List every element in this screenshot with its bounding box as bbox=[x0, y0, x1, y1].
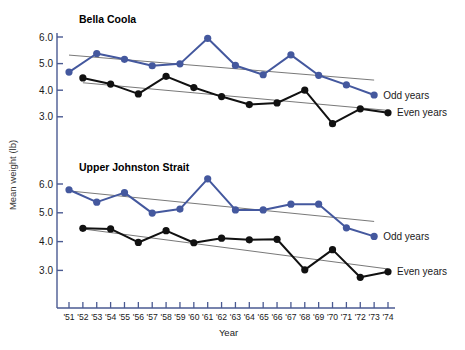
data-point bbox=[79, 74, 86, 81]
data-point bbox=[149, 62, 156, 69]
figure-root: Mean weight (lb)Bella Coola3.04.05.06.0O… bbox=[0, 0, 465, 350]
data-point bbox=[343, 81, 350, 88]
x-tick-label: '67 bbox=[285, 312, 296, 322]
series-line bbox=[69, 179, 374, 237]
data-point bbox=[329, 246, 336, 253]
data-point bbox=[93, 199, 100, 206]
x-tick-label: '65 bbox=[258, 312, 269, 322]
data-point bbox=[79, 225, 86, 232]
x-tick-label: '66 bbox=[271, 312, 282, 322]
x-tick-label: '64 bbox=[244, 312, 255, 322]
data-point bbox=[149, 209, 156, 216]
x-tick-label: '57 bbox=[147, 312, 158, 322]
y-tick-label: 6.0 bbox=[39, 179, 53, 190]
data-point bbox=[273, 236, 280, 243]
data-point bbox=[371, 233, 378, 240]
x-tick-label: '73 bbox=[369, 312, 380, 322]
y-tick-label: 3.0 bbox=[39, 111, 53, 122]
data-point bbox=[135, 239, 142, 246]
trend-line bbox=[69, 55, 374, 80]
trend-line bbox=[83, 229, 388, 269]
data-point bbox=[343, 224, 350, 231]
x-tick-label: '53 bbox=[91, 312, 102, 322]
chart-canvas: Mean weight (lb)Bella Coola3.04.05.06.0O… bbox=[0, 0, 465, 350]
y-tick-label: 6.0 bbox=[39, 32, 53, 43]
data-point bbox=[232, 206, 239, 213]
data-point bbox=[107, 225, 114, 232]
data-point bbox=[315, 201, 322, 208]
data-point bbox=[260, 206, 267, 213]
x-tick-label: '63 bbox=[230, 312, 241, 322]
data-point bbox=[121, 189, 128, 196]
y-tick-label: 3.0 bbox=[39, 265, 53, 276]
x-tick-label: '74 bbox=[382, 312, 393, 322]
series-line bbox=[83, 228, 388, 277]
data-point bbox=[162, 73, 169, 80]
data-point bbox=[273, 99, 280, 106]
x-tick-label: '62 bbox=[216, 312, 227, 322]
data-point bbox=[357, 274, 364, 281]
data-point bbox=[218, 235, 225, 242]
x-tick-label: '69 bbox=[313, 312, 324, 322]
data-point bbox=[65, 186, 72, 193]
data-point bbox=[218, 93, 225, 100]
x-tick-label: '56 bbox=[133, 312, 144, 322]
data-point bbox=[162, 227, 169, 234]
data-point bbox=[301, 266, 308, 273]
data-point bbox=[176, 205, 183, 212]
series-label: Odd years bbox=[383, 90, 429, 101]
y-axis-title: Mean weight (lb) bbox=[7, 140, 18, 210]
data-point bbox=[176, 60, 183, 67]
data-point bbox=[315, 72, 322, 79]
data-point bbox=[232, 62, 239, 69]
x-tick-label: '52 bbox=[77, 312, 88, 322]
x-tick-label: '60 bbox=[188, 312, 199, 322]
y-tick-label: 5.0 bbox=[39, 207, 53, 218]
data-point bbox=[121, 56, 128, 63]
data-point bbox=[107, 80, 114, 87]
data-point bbox=[190, 239, 197, 246]
data-point bbox=[204, 35, 211, 42]
data-point bbox=[301, 87, 308, 94]
data-point bbox=[384, 109, 391, 116]
x-tick-label: '71 bbox=[341, 312, 352, 322]
x-tick-label: '72 bbox=[355, 312, 366, 322]
x-tick-label: '70 bbox=[327, 312, 338, 322]
data-point bbox=[246, 101, 253, 108]
series-label: Odd years bbox=[383, 231, 429, 242]
x-tick-label: '51 bbox=[63, 312, 74, 322]
data-point bbox=[357, 105, 364, 112]
data-point bbox=[65, 69, 72, 76]
series-label: Even years bbox=[397, 107, 447, 118]
x-axis-title: Year bbox=[219, 327, 238, 338]
x-tick-label: '58 bbox=[160, 312, 171, 322]
data-point bbox=[371, 91, 378, 98]
x-tick-label: '55 bbox=[119, 312, 130, 322]
data-point bbox=[246, 236, 253, 243]
data-point bbox=[260, 71, 267, 78]
x-tick-label: '68 bbox=[299, 312, 310, 322]
series-label: Even years bbox=[397, 266, 447, 277]
data-point bbox=[384, 268, 391, 275]
panel-upper-johnston-strait: Upper Johnston Strait3.04.05.06.0Odd yea… bbox=[39, 161, 447, 281]
panel-title: Upper Johnston Strait bbox=[79, 161, 190, 173]
panel-title: Bella Coola bbox=[79, 13, 136, 25]
data-point bbox=[204, 175, 211, 182]
data-point bbox=[190, 84, 197, 91]
data-point bbox=[93, 50, 100, 57]
data-point bbox=[135, 90, 142, 97]
data-point bbox=[287, 51, 294, 58]
y-tick-label: 5.0 bbox=[39, 58, 53, 69]
y-tick-label: 4.0 bbox=[39, 236, 53, 247]
y-tick-label: 4.0 bbox=[39, 85, 53, 96]
data-point bbox=[287, 201, 294, 208]
trend-line bbox=[83, 83, 388, 111]
x-tick-label: '59 bbox=[174, 312, 185, 322]
data-point bbox=[329, 120, 336, 127]
x-tick-label: '54 bbox=[105, 312, 116, 322]
x-axis: '51'52'53'54'55'56'57'58'59'60'61'62'63'… bbox=[57, 302, 395, 338]
x-tick-label: '61 bbox=[202, 312, 213, 322]
panel-bella-coola: Bella Coola3.04.05.06.0Odd yearsEven yea… bbox=[39, 13, 447, 127]
